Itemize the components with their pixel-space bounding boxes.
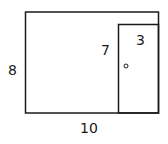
door-knob-icon: [124, 64, 128, 68]
wall-height-label: 8: [8, 62, 17, 78]
door-width-label: 3: [136, 32, 145, 48]
door-height-label: 7: [101, 42, 110, 58]
wall-width-label: 10: [80, 120, 98, 136]
wall-rectangle: [26, 12, 159, 113]
wall-door-diagram: 8 10 7 3: [0, 0, 168, 144]
